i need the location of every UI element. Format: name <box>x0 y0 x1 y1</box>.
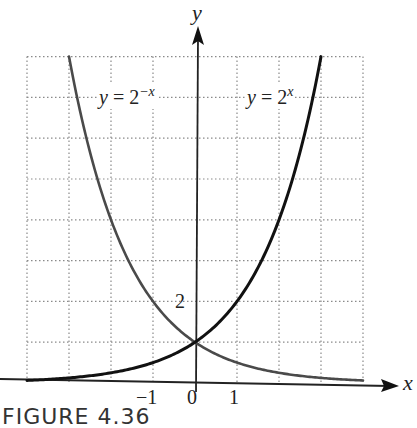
y-axis-label: y <box>192 0 202 26</box>
curves <box>27 57 363 381</box>
label-exponent: −x <box>139 84 155 99</box>
label-exponent: x <box>287 84 293 99</box>
y-tick-label-2: 2 <box>175 290 185 313</box>
label-eq: = 2 <box>108 86 139 108</box>
label-eq: = 2 <box>256 86 287 108</box>
x-tick-label-1: 1 <box>229 386 239 409</box>
x-tick-label-0: 0 <box>187 386 197 409</box>
curve-label-2-neg-x: y = 2−x <box>97 84 157 109</box>
x-axis-label: x <box>403 370 413 396</box>
label-y: y <box>99 86 108 108</box>
axes <box>0 26 399 392</box>
figure-caption: FIGURE 4.36 <box>2 404 150 428</box>
label-y: y <box>247 86 256 108</box>
curve-label-2-x: y = 2x <box>245 84 295 109</box>
